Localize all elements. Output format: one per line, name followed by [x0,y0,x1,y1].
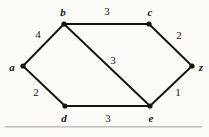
edge-weight-ab: 4 [35,29,41,40]
graph-edge-ad [23,66,65,106]
node-label-a: a [9,62,15,73]
edge-layer [23,24,192,106]
edge-weight-de: 3 [105,113,111,124]
graph-node-a [20,63,25,68]
node-label-e: e [149,113,154,124]
edge-weight-ez: 1 [175,87,181,98]
graph-node-c [146,21,151,26]
node-label-b: b [60,7,66,18]
graph-edge-cz [149,24,192,66]
graph-figure: 4323231abcdez [0,0,209,137]
node-label-d: d [61,113,67,124]
edge-weight-cz: 2 [176,30,182,41]
graph-node-z [189,63,194,68]
graph-edge-be [64,24,150,106]
edge-weight-ad: 2 [33,87,39,98]
edge-weight-be: 3 [110,55,116,66]
graph-edge-ez [150,66,192,106]
node-label-c: c [148,7,153,18]
graph-node-b [61,21,66,26]
graph-edge-ab [23,24,64,66]
graph-node-e [147,103,152,108]
edge-weight-bc: 3 [104,6,110,17]
horizontal-rule [5,126,202,128]
graph-node-d [62,103,67,108]
node-label-z: z [199,62,203,73]
